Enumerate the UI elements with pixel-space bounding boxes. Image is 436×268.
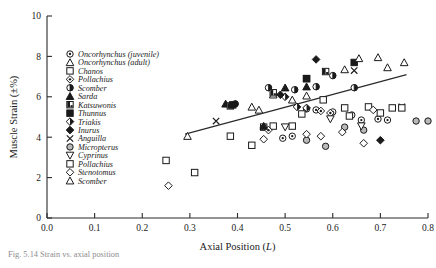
data-point-square-open [320,97,326,103]
data-point-diamond-open [260,135,268,143]
data-point-square-open [227,133,233,139]
dot [282,137,284,139]
dot [320,110,322,112]
x-tick-label: 0.8 [422,223,434,233]
data-point-x-cross [67,135,73,141]
dot [69,78,71,80]
half-fill [323,69,326,74]
data-point-triangle-filled [66,93,74,100]
x-tick-label: 0.6 [327,223,339,233]
data-point-diamond-filled [377,136,385,144]
dot [329,112,331,114]
data-point-diamond-filled [312,56,320,64]
data-point-circle-grey [322,143,328,149]
data-point-circle-grey [413,118,419,124]
data-point-triangle-down-open [281,124,289,131]
x-tick-label: 0.3 [184,223,196,233]
x-tick-label: 0.4 [232,223,244,233]
half-fill [326,72,328,74]
half-fill [70,85,73,91]
y-tick-label: 10 [32,11,42,21]
data-point-square-open [163,157,169,163]
data-point-triangle-open [184,132,192,139]
half-fill [271,90,274,95]
data-point-triangle-open-2 [66,177,74,184]
data-point-x-cross [213,118,219,124]
series-14 [165,106,377,189]
data-point-triangle-open-2 [288,96,296,103]
data-point-triangle-open [400,59,408,66]
data-point-square-open-2 [346,113,352,119]
x-tick-label: 0.7 [374,223,386,233]
data-point-triangle-filled [281,84,289,91]
half-fill [297,103,301,111]
y-axis-title: Muscle Strain (±%) [8,75,20,158]
data-point-triangle-open [66,59,74,66]
y-tick-label: 4 [36,133,41,143]
data-point-square-open-2 [249,142,255,148]
dot [291,135,293,137]
legend: Oncorhynchus (juvenile)Oncorhynchus (adu… [66,50,159,186]
x-tick-label: 0.2 [136,223,148,233]
data-point-triangle-open [374,54,382,61]
half-fill [333,72,336,78]
data-point-diamond-open [165,182,173,190]
half-fill [295,87,298,93]
data-point-square-open-2 [289,123,295,129]
data-point-triangle-open-2 [384,64,392,71]
x-tick-label: 0.5 [279,223,291,233]
data-point-diamond-open [66,169,74,177]
data-point-square-open [389,105,395,111]
data-point-square-open [299,111,305,117]
data-point-diamond-open [317,132,325,140]
dot [360,119,362,121]
data-point-diamond-open [303,130,311,138]
data-point-square-open [341,105,347,111]
half-fill [274,93,276,95]
data-point-x-cross [351,67,357,73]
half-fill [71,105,73,107]
figure-caption: Fig. 5.14 Strain vs. axial position [8,250,428,260]
data-point-triangle-down-open [66,152,74,159]
dot [386,119,388,121]
half-fill [67,102,70,107]
y-tick-label: 8 [36,52,41,62]
data-point-square-open-2 [399,105,405,111]
x-tick-label: 0.1 [89,223,101,233]
scatter-plot: 0.00.10.20.30.40.50.60.70.80246810Axial … [0,0,436,268]
data-point-triangle-open [248,103,256,110]
data-point-square-filled [303,75,309,81]
half-fill [354,85,357,91]
data-point-triangle-open-2 [355,55,363,62]
data-point-circle-grey [425,118,431,124]
half-fill [316,84,319,90]
data-point-square-filled [67,110,73,116]
data-point-square-open [67,68,73,74]
data-point-triangle-open-2 [255,106,263,113]
half-fill [285,93,289,101]
data-point-triangle-open [341,66,349,73]
data-point-triangle-open [303,92,311,99]
y-tick-label: 2 [36,173,41,183]
data-point-triangle-filled [303,83,311,90]
figure-container: 0.00.10.20.30.40.50.60.70.80246810Axial … [0,0,436,268]
y-tick-label: 6 [36,92,41,102]
half-fill [70,118,74,126]
legend-item: Scomber [66,177,107,186]
data-point-triangle-down-open [327,116,335,123]
legend-label: Scomber [78,177,107,186]
data-point-square-filled [230,102,236,108]
data-point-circle-grey [67,144,73,150]
data-point-square-open-2 [67,161,73,167]
data-point-square-open-2 [377,110,383,116]
data-point-square-open [191,169,197,175]
dot [69,53,71,55]
data-point-diamond-open [360,139,368,147]
data-point-diamond-filled [66,126,74,134]
y-tick-label: 0 [36,213,41,223]
dot [377,118,379,120]
x-tick-label: 0.0 [41,223,53,233]
